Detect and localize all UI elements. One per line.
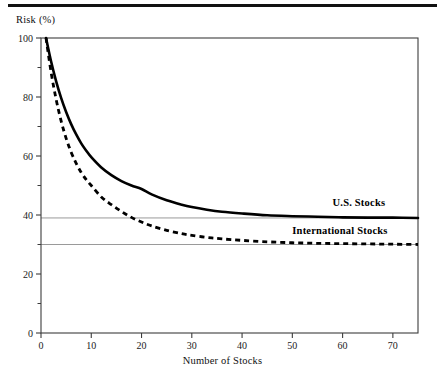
axis-ticks [36, 38, 393, 338]
y-tick-label: 60 [23, 151, 33, 162]
y-tick-label: 0 [28, 328, 33, 339]
chart-figure: Risk (%) 020406080100010203040506070 U.S… [0, 0, 445, 377]
series-label: U.S. Stocks [333, 197, 386, 208]
risk-diversification-plot: 020406080100010203040506070 U.S. StocksI… [0, 0, 445, 377]
x-tick-label: 40 [237, 340, 247, 351]
data-series-layer [46, 38, 418, 245]
plot-frame [41, 38, 418, 333]
x-tick-label: 10 [86, 340, 96, 351]
y-tick-label: 20 [23, 269, 33, 280]
y-tick-label: 40 [23, 210, 33, 221]
x-axis-title: Number of Stocks [0, 355, 445, 366]
plot-border [41, 38, 418, 333]
series-curve [46, 38, 418, 218]
series-label: International Stocks [292, 225, 387, 236]
x-tick-label: 30 [187, 340, 197, 351]
x-tick-label: 0 [39, 340, 44, 351]
x-tick-label: 60 [338, 340, 348, 351]
y-tick-label: 100 [18, 33, 33, 44]
x-tick-label: 50 [287, 340, 297, 351]
x-tick-label: 20 [137, 340, 147, 351]
y-tick-label: 80 [23, 92, 33, 103]
axis-tick-labels: 020406080100010203040506070 [18, 33, 398, 352]
x-tick-label: 70 [388, 340, 398, 351]
